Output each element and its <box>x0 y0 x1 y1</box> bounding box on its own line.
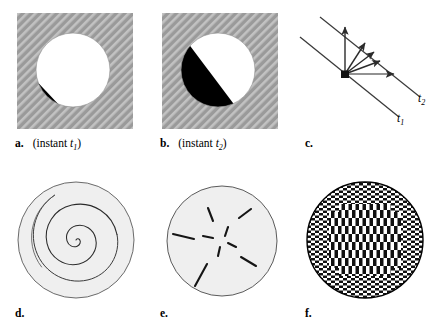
panel-c-caption: c. <box>305 137 313 149</box>
panel-e-label: e. <box>160 307 168 319</box>
panel-d-spiral-flow <box>14 178 138 302</box>
panel-c-velocity-fan <box>298 5 437 135</box>
panel-d-graphic <box>14 178 138 302</box>
panel-a-label: a. <box>15 137 24 149</box>
panel-e-caption: e. <box>160 307 168 319</box>
panel-f-label: f. <box>305 307 312 319</box>
line-t1 <box>300 37 399 117</box>
t2-sub: 2 <box>421 98 425 107</box>
flow-field-disk <box>167 186 277 296</box>
panel-b-label: b. <box>160 137 169 149</box>
panel-a-caption: a.(instant t1) <box>15 137 81 152</box>
panel-c-line-t1-label: t1 <box>397 112 404 127</box>
velocity-vector-3 <box>345 52 374 74</box>
panel-c-graphic <box>298 5 437 135</box>
velocity-vector-2 <box>345 43 365 74</box>
checkerboard-field <box>303 178 427 302</box>
panel-b-graphic <box>162 13 278 129</box>
t1-sub: 1 <box>400 118 404 127</box>
panel-c-line-t2-label: t2 <box>418 92 425 107</box>
velocity-vector-4 <box>345 61 380 74</box>
panel-a-graphic <box>17 13 133 129</box>
panel-d-label: d. <box>15 307 24 319</box>
figure-panel-grid: a.(instant t1) b.(instant t2) <box>0 0 437 335</box>
line-t2 <box>320 17 420 97</box>
panel-f-caption: f. <box>305 307 312 319</box>
panel-e-radial-flow <box>163 182 281 300</box>
checkerboard-center-cross <box>339 204 391 276</box>
origin-point <box>341 71 349 79</box>
panel-f-graphic <box>303 178 427 302</box>
panel-b-aperture-t2 <box>162 13 278 129</box>
panel-b-caption: b.(instant t2) <box>160 137 227 152</box>
panel-e-graphic <box>163 182 281 300</box>
panel-a-aperture-t1 <box>17 13 133 129</box>
panel-d-caption: d. <box>15 307 24 319</box>
panel-a-caption-text: (instant t1) <box>33 137 81 149</box>
velocity-vector-fan <box>345 27 394 74</box>
panel-c-label: c. <box>305 137 313 149</box>
panel-b-caption-text: (instant t2) <box>178 137 226 149</box>
panel-f-checkerboard <box>303 178 427 302</box>
